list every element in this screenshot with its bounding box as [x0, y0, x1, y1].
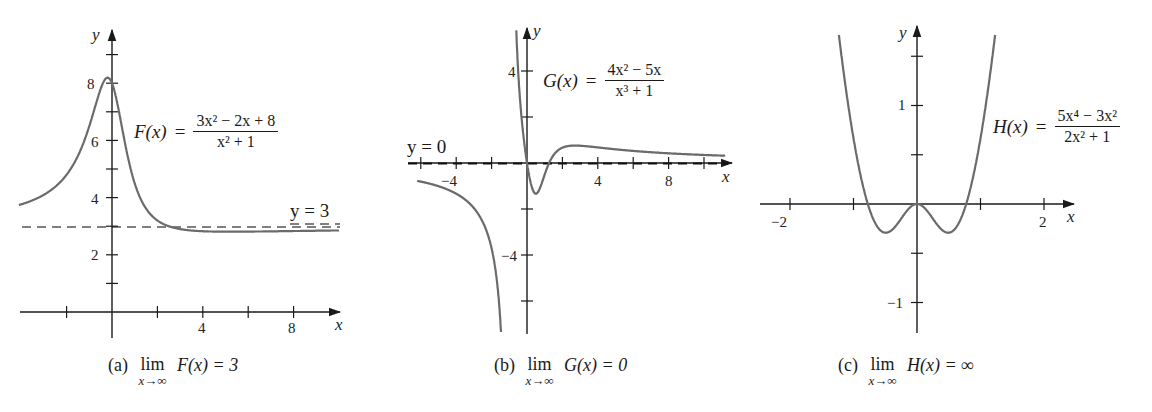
equals-sign: = — [1036, 116, 1047, 138]
caption-tag: (c) — [838, 355, 858, 375]
formula-lhs: F(x) — [134, 121, 167, 143]
caption-expression: H(x) = ∞ — [907, 355, 974, 375]
formula-G: G(x) = 4x² − 5x x³ + 1 — [543, 61, 664, 100]
y-tick-label: 4 — [91, 191, 99, 207]
caption-b: (b) lim x→∞ G(x) = 0 — [494, 355, 627, 388]
ticks-b — [421, 71, 704, 301]
lim-text: lim — [141, 355, 165, 374]
numerator: 3x² − 2x + 8 — [193, 112, 278, 132]
fraction: 3x² − 2x + 8 x² + 1 — [193, 112, 278, 151]
y-tick-label: 2 — [91, 247, 99, 263]
y-tick-label: 1 — [898, 97, 906, 113]
fraction: 5x⁴ − 3x² 2x² + 1 — [1055, 107, 1120, 146]
y-tick-label: 4 — [508, 64, 516, 80]
chart-c: y x −2 2 1 −1 — [760, 23, 1075, 333]
limit-operator: lim x→∞ — [868, 355, 896, 388]
x-tick-label: 4 — [594, 173, 602, 189]
caption-tag: (b) — [494, 355, 515, 375]
numerator: 5x⁴ − 3x² — [1055, 107, 1120, 127]
curve-G-right-branch — [516, 30, 725, 193]
x-axis-label-a: x — [334, 315, 343, 334]
denominator: x³ + 1 — [613, 81, 657, 100]
y-tick-label: −4 — [501, 248, 517, 264]
chart-a: y x 4 8 2 4 6 8 — [19, 25, 343, 338]
x-axis-label-c: x — [1066, 207, 1075, 226]
formula-lhs: G(x) — [543, 70, 578, 92]
x-tick-label: −4 — [441, 173, 457, 189]
x-tick-label: 4 — [198, 320, 206, 336]
fraction: 4x² − 5x x³ + 1 — [605, 61, 665, 100]
ticks-a — [67, 55, 294, 318]
y-axis-label-b: y — [531, 21, 541, 40]
lim-subscript: x→∞ — [526, 374, 554, 388]
formula-H: H(x) = 5x⁴ − 3x² 2x² + 1 — [993, 107, 1120, 146]
limit-operator: lim x→∞ — [138, 355, 166, 388]
formula-F: F(x) = 3x² − 2x + 8 x² + 1 — [134, 112, 278, 151]
caption-a: (a) lim x→∞ F(x) = 3 — [108, 355, 238, 388]
curve-G-left-branch — [417, 181, 501, 332]
lim-text: lim — [871, 355, 895, 374]
lim-subscript: x→∞ — [868, 374, 896, 388]
caption-expression: F(x) = 3 — [177, 355, 238, 375]
denominator: x² + 1 — [214, 132, 258, 151]
y-tick-label: 8 — [87, 76, 95, 92]
x-tick-label: 8 — [665, 173, 673, 189]
numerator: 4x² − 5x — [605, 61, 665, 81]
formula-lhs: H(x) — [993, 116, 1028, 138]
limit-operator: lim x→∞ — [526, 355, 554, 388]
x-tick-label: 8 — [288, 320, 296, 336]
y-axis-label-a: y — [90, 25, 100, 44]
caption-tag: (a) — [108, 355, 128, 375]
denominator: 2x² + 1 — [1061, 127, 1113, 146]
x-tick-label: 2 — [1039, 214, 1047, 230]
equals-sign: = — [175, 121, 186, 143]
lim-subscript: x→∞ — [138, 374, 166, 388]
equals-sign: = — [586, 70, 597, 92]
asymptote-label-a: y = 3 — [290, 200, 329, 222]
x-axis-label-b: x — [721, 167, 730, 186]
y-tick-label: −1 — [887, 295, 903, 311]
caption-c: (c) lim x→∞ H(x) = ∞ — [838, 355, 974, 388]
caption-expression: G(x) = 0 — [564, 355, 627, 375]
lim-text: lim — [528, 355, 552, 374]
asymptote-label-b: y = 0 — [407, 136, 446, 158]
y-tick-label: 6 — [91, 134, 99, 150]
y-axis-label-c: y — [897, 23, 907, 42]
x-tick-label: −2 — [771, 214, 787, 230]
